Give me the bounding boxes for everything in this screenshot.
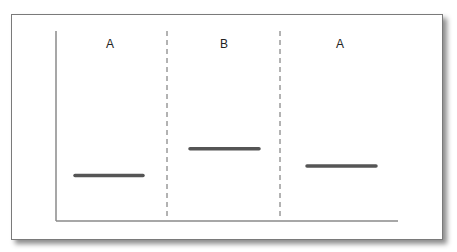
- phase-labels: A B A: [106, 37, 344, 51]
- phase-dividers: [167, 31, 280, 220]
- phase-label-1: B: [220, 37, 228, 51]
- aba-chart: A B A: [0, 0, 457, 252]
- phase-label-0: A: [106, 37, 114, 51]
- phase-level-lines: [75, 149, 376, 176]
- phase-label-2: A: [336, 37, 344, 51]
